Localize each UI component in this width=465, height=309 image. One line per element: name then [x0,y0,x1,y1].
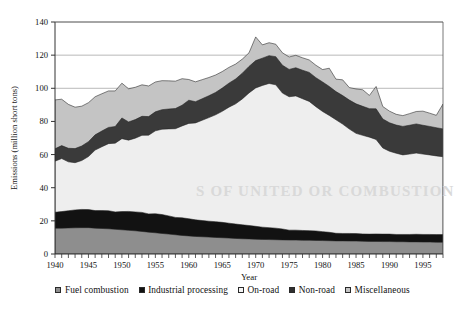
legend-item-fuel-combustion[interactable]: Fuel combustion [55,285,128,295]
legend-swatch-icon [289,287,295,293]
x-axis-ticks: 1940194519501955196019651970197519801985… [46,254,443,270]
legend-swatch-icon [238,287,244,293]
legend-label: On-road [247,285,279,295]
x-tick-label: 1955 [147,260,164,270]
emissions-stacked-area-figure: S OF UNITED OR COMBUSTION 02040608010012… [0,0,465,309]
legend-item-non-road[interactable]: Non-road [289,285,335,295]
y-axis-ticks: 020406080100120140 [35,17,55,259]
x-tick-label: 1945 [80,260,97,270]
legend-swatch-icon [55,287,61,293]
x-tick-label: 1970 [247,260,264,270]
y-tick-label: 40 [39,183,48,193]
y-tick-label: 60 [39,150,48,160]
legend-label: Non-road [299,285,335,295]
legend-swatch-icon [139,287,145,293]
y-tick-label: 0 [44,249,48,259]
y-tick-label: 80 [39,116,48,126]
y-tick-label: 120 [35,50,48,60]
x-tick-label: 1975 [281,260,298,270]
y-tick-label: 100 [35,83,48,93]
y-tick-label: 140 [35,17,48,27]
legend-label: Miscellaneous [355,285,410,295]
chart-legend: Fuel combustionIndustrial processingOn-r… [0,285,465,295]
chart-canvas: 020406080100120140 194019451950195519601… [0,0,465,309]
x-tick-label: 1985 [347,260,364,270]
x-tick-label: 1980 [314,260,331,270]
legend-item-on-road[interactable]: On-road [238,285,279,295]
x-tick-label: 1940 [46,260,63,270]
x-tick-label: 1990 [381,260,398,270]
legend-item-industrial-processing[interactable]: Industrial processing [139,285,228,295]
legend-swatch-icon [345,287,351,293]
legend-item-miscellaneous[interactable]: Miscellaneous [345,285,410,295]
x-tick-label: 1950 [113,260,130,270]
y-axis-title: Emissions (million short tons) [9,86,19,190]
x-tick-label: 1960 [180,260,197,270]
x-axis-title: Year [241,272,257,282]
x-tick-label: 1965 [214,260,231,270]
x-tick-label: 1995 [414,260,431,270]
legend-label: Industrial processing [148,285,228,295]
y-tick-label: 20 [39,216,48,226]
legend-label: Fuel combustion [65,285,129,295]
